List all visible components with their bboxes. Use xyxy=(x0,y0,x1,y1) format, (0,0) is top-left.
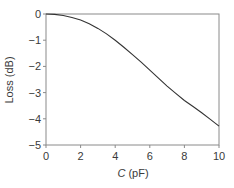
x-axis-unit: (pF) xyxy=(125,167,148,179)
x-tick-label: 4 xyxy=(112,150,118,162)
x-tick-label: 6 xyxy=(147,150,153,162)
y-tick-label: −1 xyxy=(28,34,41,46)
loss-curve xyxy=(46,14,219,126)
y-tick-label: −2 xyxy=(28,60,41,72)
x-axis-label: C (pF) xyxy=(117,167,148,179)
plot-border xyxy=(46,14,219,145)
y-axis-label: Loss (dB) xyxy=(3,56,15,103)
x-tick-label: 10 xyxy=(213,150,225,162)
y-axis-ticks: 0−1−2−3−4−5 xyxy=(28,8,46,151)
y-tick-label: −4 xyxy=(28,113,41,125)
x-tick-label: 0 xyxy=(43,150,49,162)
plot-frame xyxy=(46,14,219,145)
x-axis-ticks: 0246810 xyxy=(43,145,225,162)
x-tick-label: 2 xyxy=(78,150,84,162)
x-tick-label: 8 xyxy=(181,150,187,162)
y-tick-label: 0 xyxy=(35,8,41,20)
x-axis-variable: C xyxy=(117,167,125,179)
loss-vs-capacitance-chart: 0−1−2−3−4−5 0246810 Loss (dB) C (pF) xyxy=(0,0,234,188)
y-tick-label: −5 xyxy=(28,139,41,151)
y-tick-label: −3 xyxy=(28,87,41,99)
